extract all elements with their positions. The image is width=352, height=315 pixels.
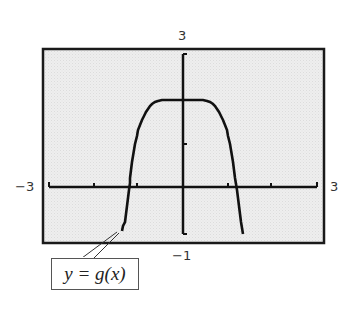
y-max-label: 3 xyxy=(178,29,186,42)
x-max-label: 3 xyxy=(330,180,338,193)
y-min-label: −1 xyxy=(172,249,191,262)
function-label-box: y = g(x) xyxy=(51,258,139,290)
x-min-label: −3 xyxy=(15,180,34,193)
